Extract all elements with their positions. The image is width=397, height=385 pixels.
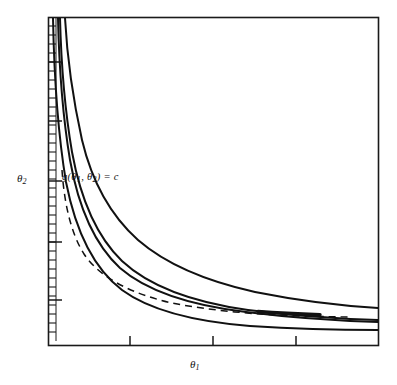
- y-axis-label: θ2: [17, 172, 27, 186]
- constraint-curve: [62, 170, 348, 317]
- annotation-constant: c: [114, 171, 119, 182]
- level-curve-middle: [60, 18, 378, 320]
- y-axis-label-subscript: 2: [23, 177, 27, 186]
- constraint-curve-annotation: g(θ1, θ2) = c: [62, 171, 119, 184]
- x-axis-ticks: [130, 336, 296, 346]
- x-axis-label-subscript: 1: [196, 363, 200, 372]
- annotation-equals: =: [104, 171, 111, 182]
- figure-container: θ2 θ1 g(θ1, θ2) = c: [0, 0, 397, 385]
- level-curve-upper: [65, 18, 378, 308]
- x-axis-label: θ1: [190, 358, 200, 372]
- annotation-close-paren: ): [97, 171, 101, 182]
- level-curve-plot: [0, 0, 397, 385]
- annotation-comma: ,: [81, 171, 84, 182]
